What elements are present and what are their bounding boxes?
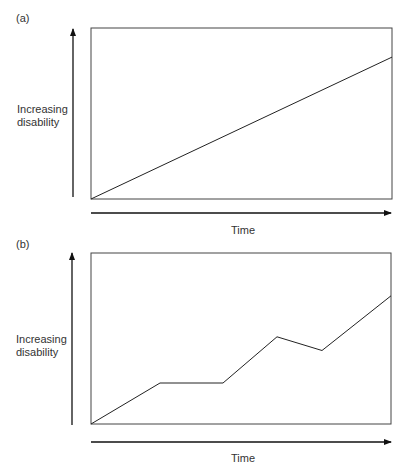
y-axis-label-line1: Increasing xyxy=(16,333,67,346)
panel-a-label: (a) xyxy=(16,12,29,25)
plot-frame xyxy=(91,28,392,199)
data-line xyxy=(91,296,391,424)
y-axis-label-line2: disability xyxy=(16,346,58,359)
x-axis-label: Time xyxy=(231,224,255,237)
y-axis-label-line2: disability xyxy=(17,116,59,129)
y-axis-label-line1: Increasing xyxy=(17,103,68,116)
data-line xyxy=(91,57,392,199)
x-axis-label: Time xyxy=(231,452,255,465)
panel-b-label: (b) xyxy=(16,238,29,251)
plot-frame xyxy=(91,253,391,424)
panel-b xyxy=(72,253,391,442)
figure-canvas xyxy=(0,0,404,472)
panel-a xyxy=(73,28,392,213)
